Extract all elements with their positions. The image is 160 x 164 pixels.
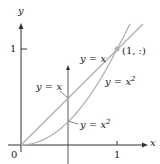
diagram-canvas <box>0 0 160 164</box>
origin-label: 0 <box>11 150 17 160</box>
intersection-label: (1, :) <box>122 46 146 56</box>
y-axis-label: y <box>18 6 24 16</box>
inner-line-pointer <box>60 91 68 98</box>
inner-line-label: y = x <box>36 82 62 92</box>
inner-parabola-pointer <box>68 121 78 124</box>
y-tick-label: 1 <box>10 44 16 54</box>
x-tick-label: 1 <box>114 150 120 160</box>
inner-parabola-label: y = x2 <box>80 119 111 130</box>
upper-line-label: y = x <box>80 54 106 64</box>
intersection-point <box>115 47 120 52</box>
x-axis-label: x <box>150 138 156 148</box>
vertical-slice-arrow-icon <box>66 65 70 70</box>
upper-parabola-label: y = x2 <box>105 76 136 87</box>
y-axis-arrow-icon <box>19 23 24 29</box>
x-axis-arrow-icon <box>142 143 148 148</box>
